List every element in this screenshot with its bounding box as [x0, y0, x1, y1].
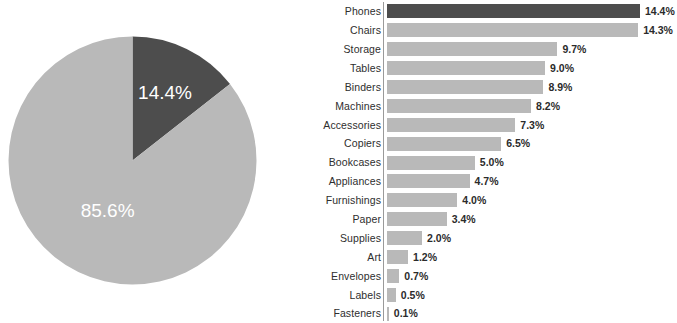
bar-category-label: Storage	[290, 44, 387, 55]
bar-chart-row[interactable]: Tables9.0%	[290, 59, 677, 78]
bar-chart-row[interactable]: Paper3.4%	[290, 210, 677, 229]
bar-fill[interactable]	[387, 42, 557, 56]
bar-category-label: Labels	[290, 290, 387, 301]
bar-category-label: Phones	[290, 6, 387, 17]
bar-category-label: Chairs	[290, 25, 387, 36]
bar-chart-rows: Phones14.4%Chairs14.3%Storage9.7%Tables9…	[290, 2, 677, 323]
bar-fill[interactable]	[387, 23, 638, 37]
bar-value-label: 4.0%	[457, 195, 486, 206]
bar-category-label: Machines	[290, 101, 387, 112]
bar-track: 14.3%	[387, 21, 677, 40]
bar-category-label: Supplies	[290, 233, 387, 244]
bar-chart-row[interactable]: Appliances4.7%	[290, 172, 677, 191]
bar-category-label: Copiers	[290, 138, 387, 149]
bar-fill[interactable]	[387, 288, 396, 302]
bar-track: 9.0%	[387, 59, 677, 78]
bar-category-label: Binders	[290, 82, 387, 93]
bar-value-label: 0.1%	[389, 308, 418, 319]
bar-chart-row[interactable]: Chairs14.3%	[290, 21, 677, 40]
bar-chart-row[interactable]: Machines8.2%	[290, 96, 677, 115]
bar-value-label: 0.7%	[399, 271, 428, 282]
bar-chart-row[interactable]: Envelopes0.7%	[290, 266, 677, 285]
bar-fill[interactable]	[387, 80, 543, 94]
bar-track: 1.2%	[387, 248, 677, 267]
bar-category-label: Bookcases	[290, 157, 387, 168]
bar-category-label: Fasteners	[290, 308, 387, 319]
bar-track: 0.5%	[387, 285, 677, 304]
bar-value-label: 8.9%	[543, 82, 572, 93]
bar-value-label: 6.5%	[501, 138, 530, 149]
bar-track: 4.0%	[387, 191, 677, 210]
bar-chart-row[interactable]: Bookcases5.0%	[290, 153, 677, 172]
bar-fill[interactable]	[387, 231, 422, 245]
pie-slice-value-label: 85.6%	[81, 200, 135, 221]
bar-value-label: 4.7%	[470, 176, 499, 187]
bar-category-label: Accessories	[290, 120, 387, 131]
bar-chart-row[interactable]: Art1.2%	[290, 248, 677, 267]
bar-value-label: 3.4%	[447, 214, 476, 225]
bar-chart-row[interactable]: Accessories7.3%	[290, 115, 677, 134]
bar-chart-row[interactable]: Binders8.9%	[290, 78, 677, 97]
bar-fill[interactable]	[387, 156, 475, 170]
bar-track: 6.5%	[387, 134, 677, 153]
pie-chart-svg: 14.4%85.6%	[0, 0, 290, 323]
bar-track: 0.1%	[387, 304, 677, 323]
bar-value-label: 14.4%	[640, 6, 675, 17]
bar-fill[interactable]	[387, 137, 501, 151]
bar-track: 8.9%	[387, 78, 677, 97]
bar-track: 7.3%	[387, 115, 677, 134]
bar-track: 2.0%	[387, 229, 677, 248]
bar-fill[interactable]	[387, 193, 457, 207]
bar-category-label: Envelopes	[290, 271, 387, 282]
bar-value-label: 1.2%	[408, 252, 437, 263]
bar-chart-row[interactable]: Supplies2.0%	[290, 229, 677, 248]
bar-chart-row[interactable]: Copiers6.5%	[290, 134, 677, 153]
bar-value-label: 8.2%	[531, 101, 560, 112]
bar-value-label: 7.3%	[515, 120, 544, 131]
bar-category-label: Furnishings	[290, 195, 387, 206]
bar-fill[interactable]	[387, 269, 399, 283]
bar-chart-row[interactable]: Furnishings4.0%	[290, 191, 677, 210]
bar-chart-row[interactable]: Fasteners0.1%	[290, 304, 677, 323]
bar-track: 5.0%	[387, 153, 677, 172]
dashboard-visualization: 14.4%85.6% Phones14.4%Chairs14.3%Storage…	[0, 0, 677, 323]
bar-fill[interactable]	[387, 99, 531, 113]
bar-value-label: 14.3%	[638, 25, 673, 36]
bar-track: 14.4%	[387, 2, 677, 21]
bar-track: 4.7%	[387, 172, 677, 191]
bar-track: 3.4%	[387, 210, 677, 229]
bar-fill[interactable]	[387, 212, 447, 226]
bar-value-label: 9.7%	[557, 44, 586, 55]
bar-track: 9.7%	[387, 40, 677, 59]
bar-chart-panel: Phones14.4%Chairs14.3%Storage9.7%Tables9…	[290, 0, 677, 323]
bar-value-label: 9.0%	[545, 63, 574, 74]
bar-chart-row[interactable]: Phones14.4%	[290, 2, 677, 21]
bar-value-label: 5.0%	[475, 157, 504, 168]
pie-chart-panel: 14.4%85.6%	[0, 0, 290, 323]
bar-chart-row[interactable]: Storage9.7%	[290, 40, 677, 59]
bar-fill[interactable]	[387, 118, 515, 132]
bar-value-label: 2.0%	[422, 233, 451, 244]
pie-slice-value-label: 14.4%	[138, 82, 192, 103]
bar-category-label: Art	[290, 252, 387, 263]
bar-category-label: Appliances	[290, 176, 387, 187]
bar-fill[interactable]	[387, 61, 545, 75]
bar-fill[interactable]	[387, 250, 408, 264]
bar-track: 0.7%	[387, 266, 677, 285]
bar-category-label: Tables	[290, 63, 387, 74]
bar-value-label: 0.5%	[396, 290, 425, 301]
bar-fill[interactable]	[387, 4, 640, 18]
bar-chart-row[interactable]: Labels0.5%	[290, 285, 677, 304]
bar-track: 8.2%	[387, 96, 677, 115]
bar-category-label: Paper	[290, 214, 387, 225]
bar-fill[interactable]	[387, 174, 470, 188]
